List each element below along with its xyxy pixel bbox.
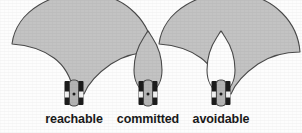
caption-avoidable: avoidable: [193, 112, 250, 126]
caption-committed: committed: [117, 112, 179, 126]
robot-icon: [65, 80, 84, 106]
robot-icon: [212, 80, 231, 106]
robot-icon: [139, 80, 158, 106]
caption-reachable: reachable: [45, 112, 102, 126]
